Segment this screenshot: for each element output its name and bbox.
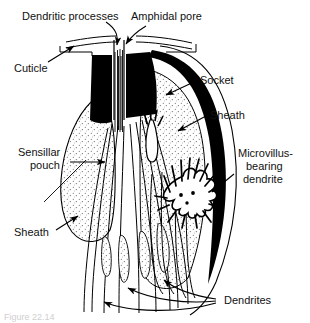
amphid-sensillum-figure: Dendritic processes Amphidal pore Cuticl… (0, 0, 310, 323)
label-microvillus-2: bearing (246, 160, 283, 172)
label-socket: Socket (200, 74, 234, 86)
label-sheath-left: Sheath (14, 226, 49, 238)
label-cuticle: Cuticle (14, 62, 48, 74)
label-dendrites: Dendrites (224, 294, 272, 306)
cuticle-block-left (90, 55, 112, 123)
label-microvillus-1: Microvillus- (238, 147, 293, 159)
label-sensillar-pouch-2: pouch (30, 159, 60, 171)
label-sensillar-pouch-1: Sensillar (18, 146, 61, 158)
cuticle-block-right (126, 52, 157, 118)
label-dendritic-processes: Dendritic processes (22, 10, 119, 22)
label-sheath-right: Sheath (210, 109, 245, 121)
diagram-svg: Dendritic processes Amphidal pore Cuticl… (0, 0, 310, 323)
label-amphidal-pore: Amphidal pore (131, 10, 202, 22)
figure-caption: Figure 22.14 (4, 312, 184, 323)
label-microvillus-3: dendrite (243, 173, 283, 185)
